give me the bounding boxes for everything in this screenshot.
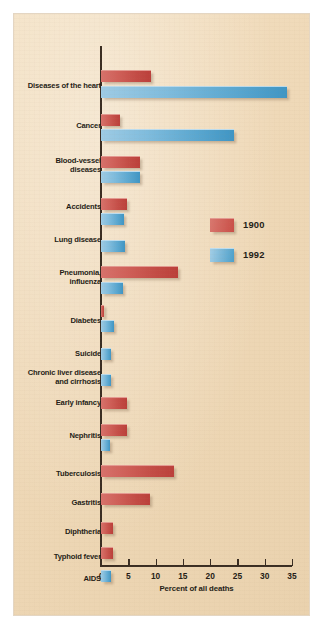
category-label: Diphtheria — [14, 528, 101, 537]
category-label: Suicide — [14, 350, 101, 359]
bar-1992 — [101, 129, 234, 141]
bar-1900 — [101, 522, 113, 534]
bar-1900 — [101, 424, 127, 436]
plot-area: 05101520253035 Percent of all deaths 190… — [14, 14, 309, 615]
chart-figure: 05101520253035 Percent of all deaths 190… — [14, 14, 309, 615]
x-tick-label-35: 35 — [279, 571, 305, 581]
bar-1992 — [101, 240, 125, 252]
category-label: Pneumonia, influenza — [14, 269, 101, 286]
category-label: Typhoid fever — [14, 553, 101, 562]
bar-1900 — [101, 70, 151, 82]
x-tick-0 — [101, 559, 102, 566]
category-label: Nephritis — [14, 432, 101, 441]
bar-1900 — [101, 156, 140, 168]
bar-1900 — [101, 465, 174, 477]
x-tick-label-20: 20 — [197, 571, 223, 581]
category-label: Tuberculosis — [14, 470, 101, 479]
x-tick-15 — [183, 559, 184, 566]
bar-1900 — [101, 397, 127, 409]
x-tick-35 — [292, 559, 293, 566]
bar-1992 — [101, 171, 140, 183]
bar-1992 — [101, 570, 111, 582]
bar-1992 — [101, 348, 111, 360]
bar-1900 — [101, 198, 127, 210]
legend-swatch-1900 — [210, 218, 234, 232]
x-tick-label-10: 10 — [143, 571, 169, 581]
bar-1900 — [101, 305, 104, 317]
category-label: Accidents — [14, 203, 101, 212]
bar-1992 — [101, 86, 287, 98]
category-label: Lung disease — [14, 236, 101, 245]
x-axis-title: Percent of all deaths — [14, 584, 309, 593]
legend-label-1900: 1900 — [243, 219, 265, 230]
x-tick-label-5: 5 — [115, 571, 141, 581]
bar-1992 — [101, 213, 124, 225]
x-tick-label-30: 30 — [252, 571, 278, 581]
bar-1900 — [101, 493, 150, 505]
x-tick-5 — [128, 559, 129, 566]
category-label: Blood-vessel diseases — [14, 157, 101, 174]
bar-1992 — [101, 439, 110, 451]
category-label: Cancer — [14, 122, 101, 131]
bar-1900 — [101, 114, 120, 126]
category-label: Early infancy — [14, 399, 101, 408]
x-tick-label-15: 15 — [170, 571, 196, 581]
category-label: Gastritis — [14, 499, 101, 508]
bar-1992 — [101, 282, 123, 294]
x-tick-label-25: 25 — [224, 571, 250, 581]
x-tick-10 — [156, 559, 157, 566]
category-label: AIDS — [14, 575, 101, 584]
bar-1900 — [101, 266, 178, 278]
category-label: Diabetes — [14, 317, 101, 326]
x-tick-20 — [210, 559, 211, 566]
x-tick-30 — [265, 559, 266, 566]
category-label: Chronic liver disease and cirrhosis — [14, 369, 101, 386]
legend-swatch-1992 — [210, 248, 234, 262]
x-tick-25 — [237, 559, 238, 566]
bar-1992 — [101, 374, 111, 386]
legend-label-1992: 1992 — [243, 249, 265, 260]
bar-1992 — [101, 320, 114, 332]
category-label: Diseases of the heart — [14, 82, 101, 91]
bar-1900 — [101, 547, 113, 559]
